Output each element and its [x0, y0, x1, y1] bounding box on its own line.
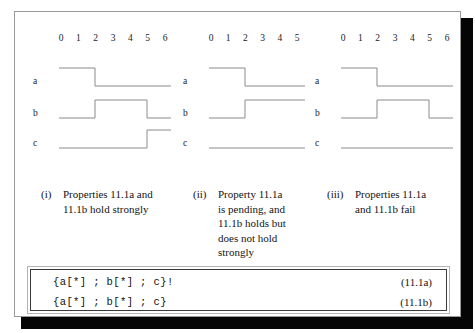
signal-row-a: a: [173, 60, 311, 94]
tick-axis-iii: 0 1 2 3 4 5 6: [343, 33, 447, 47]
tick-label: 0: [209, 33, 214, 44]
signal-label-b: b: [315, 108, 320, 119]
caption-text: Properties 11.1a and 11.1b hold strongly: [63, 187, 191, 216]
caption-line: 11.1b hold strongly: [63, 202, 191, 217]
caption-ii: (ii) Property 11.1a is pending, and 11.1…: [193, 187, 319, 260]
signal-waveform-b: [205, 92, 305, 126]
tick-label: 0: [341, 33, 346, 44]
signal-label-a: a: [315, 76, 319, 87]
tick-label: 6: [163, 33, 168, 44]
signal-row-c: c: [305, 122, 457, 156]
tick-label: 1: [76, 33, 81, 44]
caption-line: strongly: [218, 245, 319, 260]
tick-label: 4: [128, 33, 133, 44]
signal-waveform-c: [55, 122, 171, 156]
formula-code: {a[*] ; b[*] ; c}!: [53, 273, 174, 292]
tick-label: 1: [358, 33, 363, 44]
caption-text: Property 11.1a is pending, and 11.1b hol…: [218, 187, 319, 260]
caption-text: Properties 11.1a and 11.1b fail: [355, 187, 467, 216]
signal-label-b: b: [33, 108, 38, 119]
signal-row-a: a: [305, 60, 457, 94]
tick-label: 5: [427, 33, 432, 44]
signal-waveform-a: [337, 60, 453, 94]
signal-row-c: c: [173, 122, 311, 156]
tick-label: 0: [59, 33, 64, 44]
signal-label-b: b: [183, 108, 188, 119]
signal-waveform-c: [205, 122, 305, 156]
signal-row-c: c: [23, 122, 175, 156]
formula-row: {a[*] ; b[*] ; c} (11.1b): [31, 293, 446, 313]
signal-row-b: b: [23, 92, 175, 126]
caption-line: Properties 11.1a and: [63, 187, 191, 202]
caption-marker: (ii): [193, 187, 206, 202]
tick-label: 5: [295, 33, 300, 44]
caption-marker: (i): [41, 187, 51, 202]
signal-label-a: a: [33, 76, 37, 87]
signal-label-c: c: [315, 138, 319, 149]
waveform-panel-iii: 0 1 2 3 4 5 6 a b: [305, 12, 457, 260]
formula-number: (11.1a): [401, 273, 432, 292]
signal-row-b: b: [305, 92, 457, 126]
tick-label: 5: [145, 33, 150, 44]
caption-marker: (iii): [327, 187, 344, 202]
caption-line: 11.1b holds but: [218, 216, 319, 231]
tick-label: 3: [393, 33, 398, 44]
signal-waveform-a: [205, 60, 305, 94]
signal-label-a: a: [183, 76, 187, 87]
signal-label-c: c: [183, 138, 187, 149]
tick-axis-i: 0 1 2 3 4 5 6: [61, 33, 165, 47]
tick-label: 2: [93, 33, 98, 44]
tick-axis-ii: 0 1 2 3 4 5: [211, 33, 297, 47]
tick-label: 6: [445, 33, 450, 44]
tick-label: 1: [226, 33, 231, 44]
figure-root: 0 1 2 3 4 5 6 a b: [0, 0, 475, 333]
signal-label-c: c: [33, 138, 37, 149]
tick-label: 2: [243, 33, 248, 44]
formula-box: {a[*] ; b[*] ; c}! (11.1a) {a[*] ; b[*] …: [27, 266, 450, 314]
signal-waveform-a: [55, 60, 171, 94]
figure-frame: 0 1 2 3 4 5 6 a b: [14, 11, 461, 317]
caption-iii: (iii) Properties 11.1a and 11.1b fail: [327, 187, 467, 216]
caption-line: Properties 11.1a: [355, 187, 467, 202]
signal-row-b: b: [173, 92, 311, 126]
tick-label: 4: [410, 33, 415, 44]
tick-label: 4: [277, 33, 282, 44]
tick-label: 2: [375, 33, 380, 44]
formula-number: (11.1b): [400, 293, 432, 312]
signal-waveform-c: [337, 122, 453, 156]
caption-line: is pending, and: [218, 202, 319, 217]
formula-row: {a[*] ; b[*] ; c}! (11.1a): [31, 273, 446, 293]
formula-box-inner: {a[*] ; b[*] ; c}! (11.1a) {a[*] ; b[*] …: [30, 269, 447, 311]
caption-line: and 11.1b fail: [355, 202, 467, 217]
signal-waveform-b: [337, 92, 453, 126]
caption-line: Property 11.1a: [218, 187, 319, 202]
caption-i: (i) Properties 11.1a and 11.1b hold stro…: [41, 187, 191, 216]
tick-label: 3: [111, 33, 116, 44]
signal-row-a: a: [23, 60, 175, 94]
formula-code: {a[*] ; b[*] ; c}: [53, 293, 167, 312]
waveform-panel-i: 0 1 2 3 4 5 6 a b: [23, 12, 175, 260]
signal-waveform-b: [55, 92, 171, 126]
tick-label: 3: [260, 33, 265, 44]
caption-line: does not hold: [218, 231, 319, 246]
